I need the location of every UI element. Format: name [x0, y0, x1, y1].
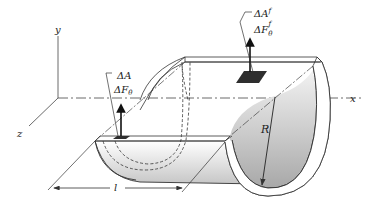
length-label: l	[114, 182, 117, 193]
y-axis-label: y	[54, 24, 61, 35]
z-axis-label: z	[16, 128, 23, 139]
z-axis	[29, 98, 58, 126]
x-axis-label: x	[350, 93, 356, 104]
half-cylinder-diagram: y x z	[0, 0, 370, 205]
upper-force-label: ΔFθf	[253, 20, 273, 38]
lower-element: ΔA ΔFθ	[106, 70, 133, 139]
lower-area-label: ΔA	[116, 70, 131, 81]
lower-force-label: ΔFθ	[113, 84, 133, 97]
lower-leader-line	[106, 73, 118, 136]
radius-label: R	[260, 123, 269, 136]
upper-area-label: ΔAf	[253, 7, 272, 19]
